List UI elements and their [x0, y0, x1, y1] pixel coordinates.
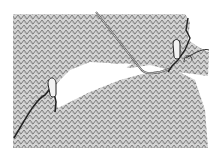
knitting-diagram	[0, 0, 221, 160]
knitting-illustration	[0, 0, 221, 160]
right-stitch-marker	[173, 40, 180, 60]
